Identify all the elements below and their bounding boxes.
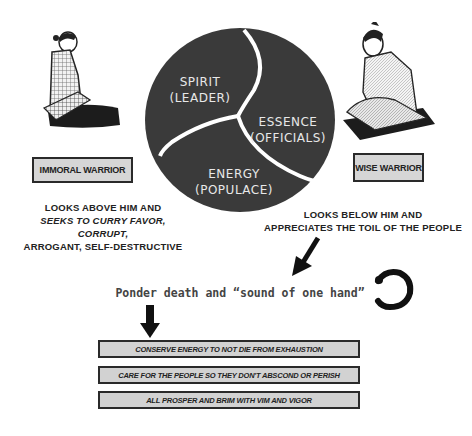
arrow-down-icon [140, 305, 160, 339]
step-care-for-people: CARE FOR THE PEOPLE SO THEY DON'T ABSCON… [98, 366, 360, 384]
step-text: ALL PROSPER AND BRIM WITH VIM AND VIGOR [146, 396, 312, 405]
enso-circle-icon [368, 265, 416, 313]
segment-essence-title: ESSENCE [259, 115, 318, 129]
caption-line: APPRECIATES THE TOIL OF THE PEOPLE [256, 221, 470, 234]
three-treasures-circle: SPIRIT (LEADER) ESSENCE (OFFICIALS) ENER… [142, 26, 338, 214]
immoral-warrior-figure-icon [38, 30, 128, 145]
segment-essence-subtitle: (OFFICIALS) [250, 131, 326, 145]
caption-line: LOOKS ABOVE HIM AND [18, 201, 188, 214]
arrow-down-left-icon [288, 236, 324, 280]
wise-warrior-label-text: WISE WARRIOR [355, 163, 422, 173]
segment-energy-subtitle: (POPULACE) [195, 183, 273, 197]
segment-spirit-title: SPIRIT [180, 75, 221, 89]
segment-energy-title: ENERGY [208, 167, 260, 181]
caption-line: SEEKS TO CURRY FAVOR, CORRUPT, [18, 214, 188, 240]
step-text: CONSERVE ENERGY TO NOT DIE FROM EXHAUSTI… [135, 345, 323, 354]
step-conserve-energy: CONSERVE ENERGY TO NOT DIE FROM EXHAUSTI… [98, 340, 360, 358]
ponder-text: Ponder death and “sound of one hand” [110, 286, 370, 300]
wise-warrior-figure-icon [335, 22, 440, 147]
immoral-warrior-label: IMMORAL WARRIOR [32, 157, 133, 183]
wise-warrior-label: WISE WARRIOR [353, 153, 424, 182]
segment-spirit-subtitle: (LEADER) [170, 91, 231, 105]
immoral-warrior-label-text: IMMORAL WARRIOR [40, 165, 126, 175]
step-text: CARE FOR THE PEOPLE SO THEY DON'T ABSCON… [118, 371, 340, 380]
immoral-warrior-caption: LOOKS ABOVE HIM AND SEEKS TO CURRY FAVOR… [18, 201, 188, 253]
step-all-prosper: ALL PROSPER AND BRIM WITH VIM AND VIGOR [98, 391, 360, 409]
wise-warrior-caption: LOOKS BELOW HIM AND APPRECIATES THE TOIL… [256, 208, 470, 234]
caption-line: ARROGANT, SELF-DESTRUCTIVE [18, 240, 188, 253]
caption-line: LOOKS BELOW HIM AND [256, 208, 470, 221]
